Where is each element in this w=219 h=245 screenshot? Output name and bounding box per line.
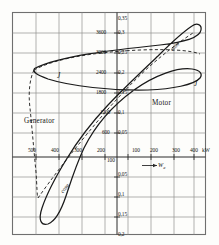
y-tick-upper-0-15: 0,15 (118, 90, 127, 95)
circle-diagram-figure: 0,35 3600 0,3 3000 0,25 2400 0,2 1800 0,… (0, 0, 219, 245)
region-label-motor: Motor (152, 100, 171, 107)
current-locus-label-right: J (194, 80, 197, 87)
x-tick-left-100: 100 (107, 158, 115, 163)
x-tick-left-500: 500 (28, 148, 36, 153)
left-dashed-arc (29, 70, 38, 198)
x-axis-unit-kw: kW (202, 148, 210, 153)
x-tick-left-200: 200 (97, 148, 105, 153)
y-tick-upper-0-05: 0,05 (118, 130, 127, 135)
y-tick-lower-0-1: 0,1 (118, 192, 124, 197)
y-tick-rpm-600: 600 (102, 130, 110, 135)
x-tick-right-400: 400 (190, 148, 198, 153)
cos-phi-dashed-line (38, 33, 193, 198)
x-axis-title-wa: Wa (158, 162, 165, 170)
y-tick-upper-0-3: 0,3 (118, 30, 124, 35)
y-tick-rpm-1200: 1200 (100, 110, 110, 115)
y-tick-rpm-1800: 1800 (96, 90, 106, 95)
y-tick-rpm-3000: 3000 (96, 50, 106, 55)
x-tick-right-300: 300 (172, 148, 180, 153)
x-tick-right-100: 100 (132, 148, 140, 153)
current-locus-label-left: J (57, 72, 60, 79)
y-tick-upper-0-35: 0,35 (118, 16, 127, 21)
y-tick-lower-0-15: 0,15 (118, 212, 127, 217)
wa-direction-arrow (142, 164, 157, 168)
x-tick-left-400: 400 (51, 148, 59, 153)
y-tick-rpm-3600: 3600 (96, 30, 106, 35)
y-tick-rpm-2400: 2400 (96, 70, 106, 75)
y-tick-upper-0-1: 0,1 (118, 110, 124, 115)
x-axis-title-wa-sub: a (163, 165, 165, 170)
y-tick-lower-0-2: 0,2 (118, 232, 124, 237)
x-tick-left-300: 300 (74, 148, 82, 153)
region-label-generator: Generator (24, 118, 55, 125)
x-tick-right-200: 200 (150, 148, 158, 153)
y-tick-upper-0-2: 0,2 (118, 70, 124, 75)
y-tick-lower-0-05: 0,05 (118, 172, 127, 177)
y-tick-upper-0-25: 0,25 (118, 50, 127, 55)
